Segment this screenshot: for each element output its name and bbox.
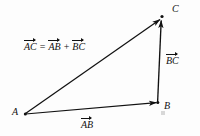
vertex-label-c: C: [172, 4, 179, 14]
equation-term1-label: AB: [48, 39, 60, 52]
vertex-dot-b: [156, 101, 159, 104]
equation-lhs-vector: AC: [24, 39, 37, 52]
scan-artifact-mark: [161, 111, 165, 115]
equation-equals-sign: =: [37, 41, 49, 52]
equation-plus-sign: +: [61, 41, 73, 52]
equation-term2-vector: BC: [72, 39, 85, 52]
equation-lhs-label: AC: [24, 39, 37, 52]
vector-label-ab: AB: [81, 115, 93, 131]
vector-equation: AC = AB + BC: [24, 39, 85, 52]
vector-label-bc-text: BC: [166, 53, 179, 66]
vertex-label-a: A: [12, 107, 18, 117]
triangle-vector-svg: [0, 0, 200, 136]
equation-term1-vector: AB: [48, 39, 60, 52]
vector-arrow-ab: [26, 103, 157, 114]
vector-label-bc: BC: [166, 51, 179, 67]
vertex-dot-c: [160, 15, 163, 18]
equation-term2-label: BC: [72, 39, 85, 52]
vertex-label-b: B: [164, 101, 170, 111]
vector-label-ab-text: AB: [81, 117, 93, 130]
vector-arrow-ac: [26, 20, 161, 114]
vertex-dot-a: [24, 113, 27, 116]
vector-arrow-bc: [158, 21, 162, 103]
vector-diagram-figure: AC = AB + BC AB BC A B C: [0, 0, 200, 136]
